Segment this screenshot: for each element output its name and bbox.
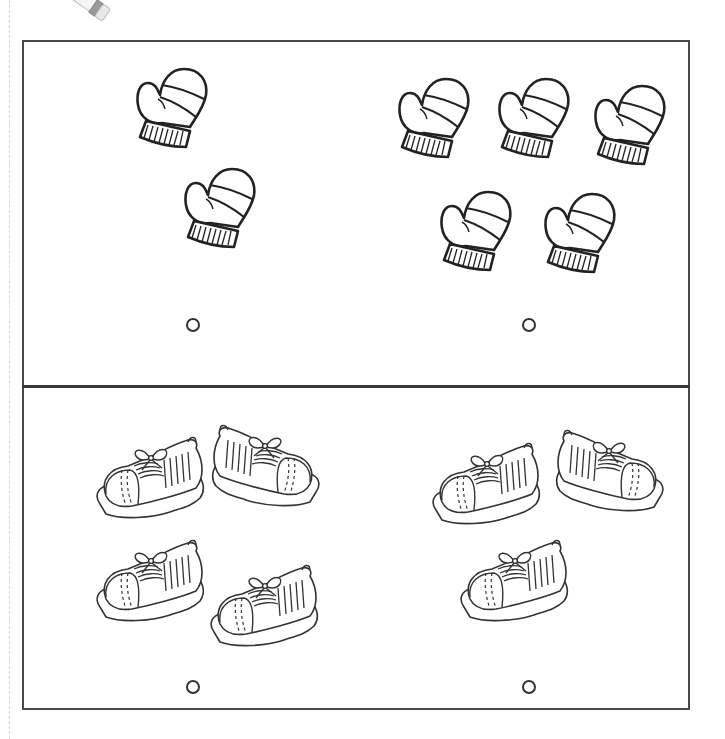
mitten-icon <box>590 82 676 172</box>
pencil-icon <box>62 0 114 20</box>
mitten-icon <box>394 75 480 165</box>
sneaker-icon <box>206 420 324 512</box>
mitten-icon <box>436 188 522 278</box>
answer-circle-sneakers-4[interactable] <box>186 680 200 694</box>
answer-circle-mittens-2[interactable] <box>186 318 200 332</box>
sneaker-icon <box>206 560 324 652</box>
cut-line <box>9 0 10 739</box>
answer-circle-mittens-5[interactable] <box>522 318 536 332</box>
mitten-icon <box>132 65 218 155</box>
mitten-icon <box>494 75 580 165</box>
sneaker-icon <box>428 438 546 530</box>
sneaker-icon <box>92 535 210 627</box>
sneaker-icon <box>550 425 668 517</box>
mitten-icon <box>180 165 266 255</box>
mitten-icon <box>540 190 626 280</box>
sneaker-icon <box>456 535 574 627</box>
answer-circle-sneakers-3[interactable] <box>522 680 536 694</box>
row-divider <box>22 385 690 388</box>
sneaker-icon <box>92 432 210 524</box>
